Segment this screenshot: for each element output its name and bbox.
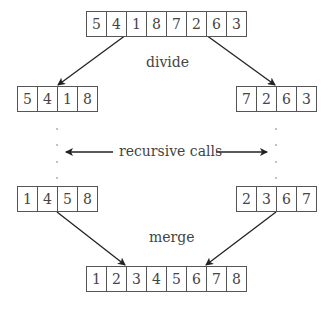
array-cell: 5 xyxy=(17,86,38,112)
left-half-array: 5 4 1 8 xyxy=(17,86,98,112)
array-cell: 3 xyxy=(256,186,277,212)
divide-label: divide xyxy=(146,54,189,70)
array-cell: 7 xyxy=(236,86,257,112)
array-cell: 2 xyxy=(186,11,207,37)
array-cell: 2 xyxy=(256,86,277,112)
right-half-array: 7 2 6 3 xyxy=(236,86,317,112)
left-sorted-array: 1 4 5 8 xyxy=(17,186,98,212)
merge-label: merge xyxy=(149,229,195,245)
array-cell: 4 xyxy=(37,186,58,212)
array-cell: 3 xyxy=(226,11,247,37)
array-cell: 4 xyxy=(146,266,167,292)
array-cell: 6 xyxy=(206,11,227,37)
array-cell: 1 xyxy=(126,11,147,37)
array-cell: 5 xyxy=(86,11,107,37)
array-cell: 1 xyxy=(17,186,38,212)
input-array: 5 4 1 8 7 2 6 3 xyxy=(86,11,247,37)
array-cell: 2 xyxy=(236,186,257,212)
array-cell: 3 xyxy=(296,86,317,112)
dots-left xyxy=(56,128,58,179)
merge-arrow-left xyxy=(57,212,125,265)
array-cell: 6 xyxy=(276,86,297,112)
array-cell: 8 xyxy=(77,86,98,112)
array-cell: 3 xyxy=(126,266,147,292)
array-cell: 4 xyxy=(106,11,127,37)
array-cell: 8 xyxy=(146,11,167,37)
array-cell: 1 xyxy=(86,266,107,292)
array-cell: 2 xyxy=(106,266,127,292)
array-cell: 4 xyxy=(37,86,58,112)
array-cell: 8 xyxy=(226,266,247,292)
array-cell: 8 xyxy=(77,186,98,212)
divide-arrow-right xyxy=(206,35,275,85)
array-cell: 6 xyxy=(276,186,297,212)
array-cell: 5 xyxy=(166,266,187,292)
array-cell: 5 xyxy=(57,186,78,212)
array-cell: 7 xyxy=(206,266,227,292)
divide-arrow-left xyxy=(58,35,126,85)
right-sorted-array: 2 3 6 7 xyxy=(236,186,317,212)
array-cell: 7 xyxy=(296,186,317,212)
array-cell: 6 xyxy=(186,266,207,292)
merge-arrow-right xyxy=(206,212,276,265)
dots-right xyxy=(275,128,277,179)
array-cell: 1 xyxy=(57,86,78,112)
recursive-calls-label: recursive calls xyxy=(119,143,222,159)
array-cell: 7 xyxy=(166,11,187,37)
output-array: 1 2 3 4 5 6 7 8 xyxy=(86,266,247,292)
